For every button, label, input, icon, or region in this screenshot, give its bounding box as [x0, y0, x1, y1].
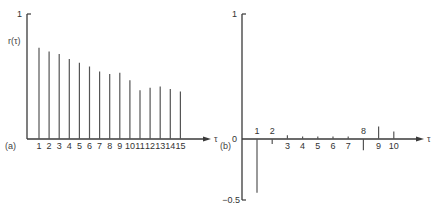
x-tick-label: 6	[87, 141, 92, 151]
y-tick-label: 0	[232, 134, 237, 144]
x-tick-label: 11	[135, 141, 144, 151]
x-tick-label: 10	[389, 141, 399, 151]
x-tick-label: 9	[376, 141, 381, 151]
y-tick-label: 1	[17, 9, 22, 19]
x-tick-label: 13	[155, 141, 165, 151]
x-tick-label: 14	[165, 141, 175, 151]
x-axis-label: τ	[214, 134, 218, 144]
x-tick-label: 15	[175, 141, 185, 151]
x-tick-label: 3	[57, 141, 62, 151]
y-tick-label: 1	[232, 9, 237, 19]
x-axis-arrow-icon	[416, 137, 424, 142]
x-tick-label: 2	[270, 126, 275, 136]
autocorrelation-figure: 1r(τ)τ(a)12345678910111213141510−0.5τ(b)…	[0, 0, 437, 215]
x-axis-label: τ	[427, 134, 431, 144]
x-tick-label: 1	[36, 141, 41, 151]
x-tick-label: 1	[254, 126, 259, 136]
x-tick-label: 8	[361, 126, 366, 136]
panel-a: 1r(τ)τ(a)123456789101112131415	[5, 9, 218, 151]
y-axis-label: r(τ)	[8, 36, 21, 46]
x-tick-label: 3	[285, 141, 290, 151]
x-tick-label: 4	[300, 141, 305, 151]
x-tick-label: 8	[107, 141, 112, 151]
panel-label: (a)	[5, 141, 16, 151]
x-tick-label: 5	[77, 141, 82, 151]
x-tick-label: 2	[47, 141, 52, 151]
y-tick-label: −0.5	[222, 195, 240, 205]
x-tick-label: 9	[117, 141, 122, 151]
x-tick-label: 7	[97, 141, 102, 151]
x-tick-label: 4	[67, 141, 72, 151]
x-tick-label: 5	[315, 141, 320, 151]
x-tick-label: 7	[346, 141, 351, 151]
x-tick-label: 12	[145, 141, 155, 151]
x-tick-label: 6	[330, 141, 335, 151]
panel-label: (b)	[220, 141, 231, 151]
x-tick-label: 10	[125, 141, 135, 151]
panel-b: 10−0.5τ(b)12345678910	[220, 9, 431, 205]
x-axis-arrow-icon	[203, 137, 211, 142]
